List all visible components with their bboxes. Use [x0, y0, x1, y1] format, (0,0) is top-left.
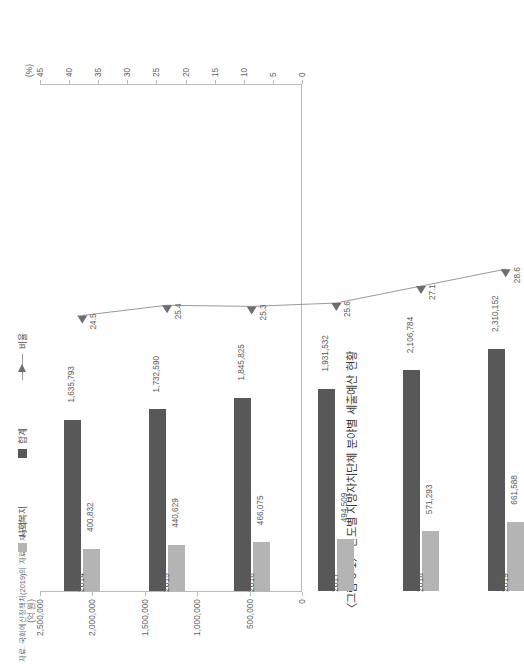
bar-total	[488, 349, 505, 591]
percent-axis-tick-label: 25	[151, 68, 161, 77]
bar-welfare-value-label: 571,293	[425, 485, 434, 515]
legend-item-label: 합계	[16, 428, 28, 444]
value-axis-tick-label: 0	[297, 599, 307, 604]
value-axis-tick-label: 2,000,000	[87, 599, 97, 636]
legend-item: 합계	[16, 428, 28, 458]
value-axis-tick	[145, 592, 146, 596]
percent-axis-tick	[98, 80, 99, 84]
ratio-value-label: 25.6	[343, 301, 352, 317]
bar-total-value-label: 1,732,590	[152, 356, 161, 392]
percent-axis-tick-label: 40	[64, 68, 74, 77]
ratio-point-marker	[331, 303, 341, 311]
chart-legend: 사회복지합계비율	[16, 333, 28, 552]
percent-axis-tick	[127, 80, 128, 84]
value-axis-tick	[302, 592, 303, 596]
bar-total-value-label: 1,931,532	[321, 335, 330, 371]
percent-axis-tick-label: 15	[210, 68, 220, 77]
legend-swatch-icon	[18, 449, 27, 458]
ratio-point-marker	[77, 315, 87, 323]
category-label-2019: 2019	[500, 573, 510, 592]
bar-welfare-value-label: 466,075	[256, 496, 265, 526]
category-label-2014: 2014	[76, 573, 86, 592]
category-label-2017: 2017	[330, 573, 340, 592]
category-label-2018: 2018	[415, 573, 425, 592]
value-axis-tick	[40, 592, 41, 596]
bar-total	[403, 370, 420, 591]
plot-area: (억 원) (%) 2,500,0002,000,0001,500,0001,0…	[40, 84, 302, 592]
percent-axis-tick	[186, 80, 187, 84]
bar-welfare-value-label: 400,832	[86, 502, 95, 532]
bar-welfare-value-label: 494,509	[340, 493, 349, 523]
ratio-value-label: 27.1	[428, 284, 437, 300]
ratio-point-marker	[416, 286, 426, 294]
value-axis-tick-label: 1,500,000	[140, 599, 150, 636]
value-axis-tick-label: 1,000,000	[192, 599, 202, 636]
ratio-line-path	[82, 269, 505, 315]
legend-item: 비율	[16, 333, 28, 380]
percent-axis-tick-label: 45	[35, 68, 45, 77]
percent-axis-unit: (%)	[24, 64, 34, 77]
bar-total	[64, 420, 81, 591]
bar-welfare-value-label: 440,629	[171, 498, 180, 528]
percent-axis-tick-label: 35	[93, 68, 103, 77]
bar-total	[318, 389, 335, 591]
percent-axis-tick-label: 5	[268, 72, 278, 77]
category-label-2015: 2015	[161, 573, 171, 592]
bar-welfare-value-label: 661,588	[510, 475, 519, 505]
bar-total-value-label: 2,106,784	[406, 317, 415, 353]
ratio-point-marker	[247, 306, 257, 314]
ratio-point-marker	[162, 305, 172, 313]
percent-axis-tick-label: 0	[297, 72, 307, 77]
ratio-value-label: 25.4	[174, 303, 183, 319]
bar-total	[234, 398, 251, 591]
ratio-value-label: 25.3	[259, 304, 268, 320]
legend-item-label: 사회복지	[16, 506, 28, 538]
ratio-value-label: 28.6	[513, 267, 522, 283]
legend-item: 사회복지	[16, 506, 28, 552]
percent-axis-tick-label: 30	[122, 68, 132, 77]
value-axis-tick-label: 2,500,000	[35, 599, 45, 636]
legend-line-marker-icon	[18, 354, 27, 380]
percent-axis-tick	[69, 80, 70, 84]
bar-total	[149, 409, 166, 591]
percent-axis-tick-label: 20	[181, 68, 191, 77]
ratio-value-label: 24.5	[89, 314, 98, 330]
legend-item-label: 비율	[16, 333, 28, 349]
value-axis-tick	[92, 592, 93, 596]
percent-axis-tick	[273, 80, 274, 84]
legend-swatch-icon	[18, 543, 27, 552]
bar-total-value-label: 1,635,793	[67, 366, 76, 402]
ratio-point-marker	[501, 269, 511, 277]
percent-axis-tick	[40, 80, 41, 84]
percent-axis-tick	[244, 80, 245, 84]
value-axis-tick	[197, 592, 198, 596]
percent-axis-tick-label: 10	[239, 68, 249, 77]
percent-axis-tick	[302, 80, 303, 84]
percent-axis-tick	[156, 80, 157, 84]
percent-axis-tick	[215, 80, 216, 84]
category-label-2016: 2016	[246, 573, 256, 592]
bar-total-value-label: 2,310,152	[491, 295, 500, 331]
value-axis-tick-label: 500,000	[245, 599, 255, 629]
value-axis-tick	[250, 592, 251, 596]
bar-total-value-label: 1,845,825	[237, 344, 246, 380]
